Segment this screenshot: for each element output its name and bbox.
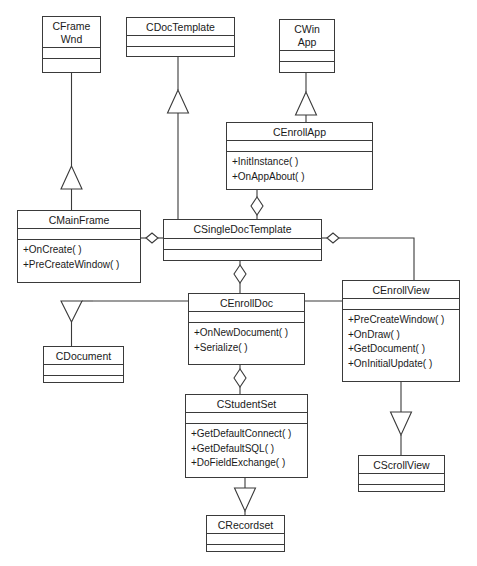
uml-class-name: CStudentSet <box>186 395 307 413</box>
uml-class-attributes <box>127 36 234 47</box>
uml-class-csingledoctemplate[interactable]: CSingleDocTemplate <box>163 219 322 261</box>
uml-operation: +GetDefaultConnect( ) <box>191 427 303 442</box>
uml-operation: +GetDocument( ) <box>348 342 455 357</box>
uml-class-operations: +InitInstance( )+OnAppAbout( ) <box>227 152 372 187</box>
uml-operation: +DoFieldExchange( ) <box>191 456 303 471</box>
uml-operation: +OnCreate( ) <box>23 243 136 258</box>
uml-class-operations <box>164 250 321 261</box>
uml-class-operations <box>280 62 334 73</box>
uml-class-operations: +OnNewDocument( )+Serialize( ) <box>189 323 304 358</box>
uml-class-operations: +PreCreateWindow( )+OnDraw( )+GetDocumen… <box>343 310 459 374</box>
uml-class-cdoctemplate[interactable]: CDocTemplate <box>126 17 235 57</box>
uml-class-crecordset[interactable]: CRecordset <box>206 515 285 552</box>
uml-class-name: CWin App <box>280 20 334 51</box>
uml-class-cdocument[interactable]: CDocument <box>43 346 124 383</box>
uml-class-name: CDocument <box>44 347 123 365</box>
uml-class-attributes <box>280 51 334 62</box>
edge-cenrolldoc-to-cstudentset <box>234 365 246 394</box>
edge-cenrolldoc-to-cdocument <box>61 301 188 346</box>
uml-operation: +PreCreateWindow( ) <box>348 313 455 328</box>
uml-class-name: CSingleDocTemplate <box>164 220 321 239</box>
edge-csingledoctemplate-to-cenrollview <box>322 233 414 280</box>
uml-operation: +Serialize( ) <box>194 341 300 356</box>
uml-class-operations: +OnCreate( )+PreCreateWindow( ) <box>18 240 140 275</box>
uml-operation: +GetDefaultSQL( ) <box>191 442 303 457</box>
uml-class-attributes <box>43 48 100 59</box>
edge-cstudentset-to-crecordset <box>235 478 256 515</box>
uml-operation: +OnDraw( ) <box>348 328 455 343</box>
uml-class-name: CFrame Wnd <box>43 17 100 48</box>
uml-class-operations <box>44 376 123 387</box>
uml-class-attributes <box>18 229 140 240</box>
uml-class-attributes <box>343 299 459 310</box>
edge-csingledoctemplate-to-cenrolldoc <box>234 261 246 293</box>
uml-operation: +PreCreateWindow( ) <box>23 258 136 273</box>
uml-class-name: CMainFrame <box>18 211 140 229</box>
uml-class-cmainframe[interactable]: CMainFrame+OnCreate( )+PreCreateWindow( … <box>17 210 141 283</box>
uml-class-name: CEnrollApp <box>227 123 372 141</box>
uml-operation: +OnAppAbout( ) <box>232 170 368 185</box>
uml-class-operations <box>207 545 284 556</box>
uml-class-diagram: CFrame WndCDocTemplateCWin AppCEnrollApp… <box>0 0 477 566</box>
uml-class-attributes <box>189 312 304 323</box>
uml-class-cframewnd[interactable]: CFrame Wnd <box>42 16 101 73</box>
edge-csingledoctemplate-to-cmainframe <box>141 233 163 243</box>
edge-cenrollapp-to-csingledoctemplate <box>251 190 263 219</box>
uml-class-name: CDocTemplate <box>127 18 234 36</box>
uml-class-cscrollview[interactable]: CScrollView <box>358 455 445 492</box>
edge-cenrollapp-to-cwinapp <box>296 73 317 122</box>
uml-class-name: CScrollView <box>359 456 444 474</box>
uml-class-cenrolldoc[interactable]: CEnrollDoc+OnNewDocument( )+Serialize( ) <box>188 293 305 365</box>
uml-class-name: CRecordset <box>207 516 284 534</box>
edge-cmainframe-to-cframewnd <box>61 73 82 210</box>
uml-class-operations <box>359 485 444 496</box>
uml-class-attributes <box>44 365 123 376</box>
uml-operation: +OnInitialUpdate( ) <box>348 357 455 372</box>
uml-class-name: CEnrollDoc <box>189 294 304 312</box>
uml-class-attributes <box>186 413 307 424</box>
uml-class-operations <box>127 47 234 58</box>
uml-operation: +OnNewDocument( ) <box>194 326 300 341</box>
uml-class-attributes <box>164 239 321 250</box>
uml-class-operations: +GetDefaultConnect( )+GetDefaultSQL( )+D… <box>186 424 307 474</box>
edge-cenrollview-to-cscrollview <box>391 382 412 455</box>
uml-class-operations <box>43 59 100 70</box>
uml-class-cenrollapp[interactable]: CEnrollApp+InitInstance( )+OnAppAbout( ) <box>226 122 373 190</box>
uml-class-cenrollview[interactable]: CEnrollView+PreCreateWindow( )+OnDraw( )… <box>342 280 460 382</box>
uml-class-attributes <box>207 534 284 545</box>
uml-class-attributes <box>359 474 444 485</box>
uml-class-name: CEnrollView <box>343 281 459 299</box>
uml-class-attributes <box>227 141 372 152</box>
uml-class-cstudentset[interactable]: CStudentSet+GetDefaultConnect( )+GetDefa… <box>185 394 308 478</box>
uml-class-cwinapp[interactable]: CWin App <box>279 19 335 73</box>
uml-operation: +InitInstance( ) <box>232 155 368 170</box>
edge-csingledoctemplate-to-cdoctemplate <box>168 57 189 219</box>
